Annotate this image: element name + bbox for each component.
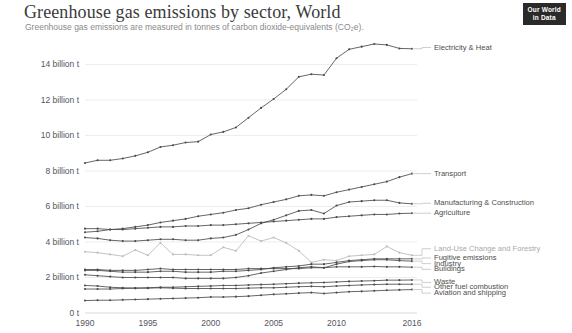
series-marker [298, 76, 300, 78]
series-marker [247, 235, 249, 237]
series-label[interactable]: Aviation and shipping [434, 288, 506, 297]
series-marker [159, 276, 161, 278]
series-marker [109, 228, 111, 230]
series-marker [185, 239, 187, 241]
series-marker [172, 220, 174, 222]
series-marker [97, 285, 99, 287]
series-marker [235, 250, 237, 252]
series-marker [373, 183, 375, 185]
x-axis-tick-label: 2005 [264, 318, 283, 328]
series-marker [386, 259, 388, 261]
series-marker [109, 286, 111, 288]
series-labels: Electricity & HeatTransportManufacturing… [412, 43, 541, 298]
series-marker [298, 195, 300, 197]
series-marker [335, 205, 337, 207]
series-marker [273, 201, 275, 203]
series-marker [310, 209, 312, 211]
series-marker [323, 213, 325, 215]
series-marker [147, 287, 149, 289]
series-marker [159, 287, 161, 289]
series-marker [247, 117, 249, 119]
series-marker [147, 254, 149, 256]
series-marker [147, 276, 149, 278]
series-marker [197, 268, 199, 270]
series-marker [97, 268, 99, 270]
series-marker [398, 266, 400, 268]
series-marker [210, 287, 212, 289]
series-marker [97, 159, 99, 161]
series-label[interactable]: Agriculture [434, 208, 470, 217]
series-leader-line [412, 249, 431, 256]
series-leader-line [412, 203, 431, 204]
series-marker [97, 237, 99, 239]
series-marker [109, 253, 111, 255]
series-marker [109, 276, 111, 278]
series-marker [398, 252, 400, 254]
series-marker [348, 215, 350, 217]
series-marker [109, 269, 111, 271]
series-marker [235, 209, 237, 211]
y-axis-tick-labels: 0 t2 billion t4 billion t6 billion t8 bi… [41, 59, 80, 318]
series-marker [348, 189, 350, 191]
series-marker [222, 212, 224, 214]
series-marker [361, 46, 363, 48]
series-label[interactable]: Land-Use Change and Forestry [434, 244, 541, 253]
series-marker [159, 298, 161, 300]
x-axis-tick-label: 2000 [201, 318, 220, 328]
y-axis-tick-label: 2 billion t [45, 272, 79, 282]
series-marker [97, 299, 99, 301]
series-marker [172, 297, 174, 299]
series-marker [185, 225, 187, 227]
series-marker [398, 47, 400, 49]
y-axis-tick-label: 4 billion t [45, 237, 79, 247]
series-marker [323, 74, 325, 76]
series-leader-line [412, 280, 431, 282]
series-marker [172, 287, 174, 289]
series-marker [97, 275, 99, 277]
series-marker [197, 285, 199, 287]
series-marker [147, 224, 149, 226]
series-marker [323, 267, 325, 269]
line-chart-svg: 0 t2 billion t4 billion t6 billion t8 bi… [0, 0, 572, 333]
series-marker [210, 285, 212, 287]
series-marker [122, 299, 124, 301]
series-marker [134, 287, 136, 289]
series-marker [197, 287, 199, 289]
series-marker [97, 288, 99, 290]
series-label[interactable]: Electricity & Heat [434, 43, 493, 52]
series-marker [398, 260, 400, 262]
series-label[interactable]: Buildings [434, 264, 465, 273]
series-marker [335, 191, 337, 193]
series-marker [197, 277, 199, 279]
series-marker [373, 199, 375, 201]
series-marker [235, 296, 237, 298]
series-marker [260, 294, 262, 296]
series-marker [361, 284, 363, 286]
series-marker [97, 230, 99, 232]
series-marker [348, 280, 350, 282]
series-marker [172, 276, 174, 278]
series-marker [235, 268, 237, 270]
series-marker [185, 268, 187, 270]
series-marker [273, 236, 275, 238]
series-marker [147, 151, 149, 153]
y-axis-tick-label: 6 billion t [45, 201, 79, 211]
series-marker [210, 224, 212, 226]
series-marker [134, 155, 136, 157]
series-leader-line [412, 290, 431, 294]
series-marker [210, 268, 212, 270]
series-label[interactable]: Transport [434, 169, 467, 178]
series-marker [285, 268, 287, 270]
series-marker [247, 295, 249, 297]
series-line [85, 44, 412, 163]
series-marker [210, 277, 212, 279]
series-marker [273, 287, 275, 289]
series-marker [197, 239, 199, 241]
series-marker [84, 228, 86, 230]
series-label[interactable]: Manufacturing & Construction [434, 198, 534, 207]
series-leader-line [412, 258, 431, 259]
series-marker [260, 221, 262, 223]
series-marker [285, 214, 287, 216]
series-marker [335, 216, 337, 218]
series-marker [335, 281, 337, 283]
